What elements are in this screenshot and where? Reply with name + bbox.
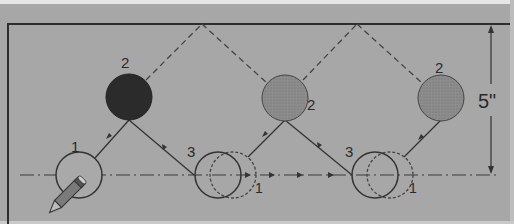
cue-ball-start	[56, 152, 102, 198]
label-landing-b: 3	[345, 143, 353, 160]
object-ball-dark	[106, 74, 152, 120]
label-ball-grey-middle: 2	[307, 96, 315, 113]
label-ball-grey-right: 2	[435, 59, 443, 76]
diagram-canvas: 1 2 3 1 2 3 1 2 5"	[0, 0, 514, 224]
object-ball-grey-right	[418, 75, 464, 121]
label-cue-start: 1	[71, 138, 79, 155]
label-ball-dark: 2	[121, 54, 129, 71]
label-ghost-a: 1	[255, 180, 263, 196]
label-landing-a: 3	[187, 143, 195, 160]
label-ghost-b: 1	[409, 180, 417, 196]
dimension-label: 5"	[478, 90, 496, 112]
arrowhead-icons	[106, 131, 424, 178]
object-ball-grey-middle	[262, 75, 308, 121]
solid-ball-paths	[95, 120, 441, 175]
billiard-diagram: 1 2 3 1 2 3 1 2 5"	[0, 0, 514, 224]
